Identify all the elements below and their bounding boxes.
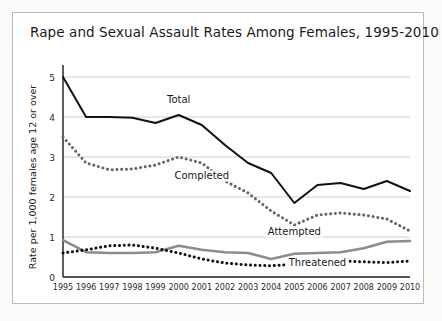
xtick-label: 2007 xyxy=(330,283,350,292)
ytick-labels-group: 012345 xyxy=(49,73,55,283)
xtick-labels-group: 1995199619971998199920002001200220032004… xyxy=(53,283,420,292)
xtick-label: 2010 xyxy=(400,283,420,292)
xtick-label: 1995 xyxy=(53,283,73,292)
y-axis-title: Rate per 1,000 females age 12 or over xyxy=(27,85,38,269)
series-label-attempted: Attempted xyxy=(268,226,321,237)
ytick-label: 2 xyxy=(49,193,55,203)
ytick-label: 3 xyxy=(49,153,55,163)
xtick-label: 2003 xyxy=(238,283,258,292)
series-label-total: Total xyxy=(166,94,190,105)
data-series-group xyxy=(63,77,410,266)
ytick-label: 1 xyxy=(49,233,55,243)
ytick-label: 0 xyxy=(49,273,55,283)
xtick-label: 2006 xyxy=(307,283,327,292)
ytick-label: 4 xyxy=(49,113,55,123)
xtick-label: 2001 xyxy=(192,283,212,292)
series-line-completed xyxy=(63,137,410,231)
xtick-label: 1997 xyxy=(99,283,119,292)
line-chart-plot: 012345 199519961997199819992000200120022… xyxy=(0,0,442,321)
series-line-attempted xyxy=(63,240,410,259)
xtick-label: 2009 xyxy=(377,283,397,292)
xtick-label: 2000 xyxy=(168,283,188,292)
series-label-threatened: Threatened xyxy=(288,257,347,268)
xtick-label: 2004 xyxy=(261,283,281,292)
gridlines-group xyxy=(63,77,410,237)
series-label-completed: Completed xyxy=(175,170,230,181)
xtick-label: 1998 xyxy=(122,283,142,292)
xtick-label: 1996 xyxy=(76,283,96,292)
xtick-label: 2008 xyxy=(354,283,374,292)
y-axis-title-group: Rate per 1,000 females age 12 or over xyxy=(27,85,38,269)
ytick-label: 5 xyxy=(49,73,55,83)
figure-container: Rape and Sexual Assault Rates Among Fema… xyxy=(0,0,442,321)
xtick-label: 2002 xyxy=(215,283,235,292)
series-line-total xyxy=(63,77,410,203)
xtick-label: 1999 xyxy=(145,283,165,292)
xtick-label: 2005 xyxy=(284,283,304,292)
